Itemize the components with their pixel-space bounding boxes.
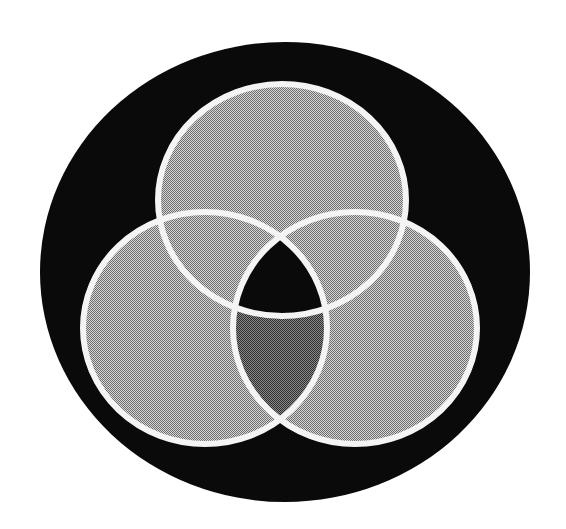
venn-diagram	[0, 0, 566, 529]
